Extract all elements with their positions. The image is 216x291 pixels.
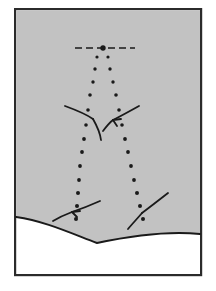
apex-marker-dot [100,45,105,50]
trail-dot [93,67,96,70]
field-region-group [16,10,200,243]
trail-dot [138,204,142,208]
trail-dot [120,123,124,127]
trail-dot [129,164,133,168]
trail-dot [108,67,111,70]
trail-dot [76,191,80,195]
trail-dot [86,108,90,112]
trail-dot [91,80,94,83]
trail-dot [126,150,130,154]
apex-node [100,45,105,50]
trail-dot [114,93,118,97]
upper-gray-field [16,10,200,243]
trail-dot [78,164,82,168]
trail-dot [132,178,136,182]
trail-dot [82,137,86,141]
trail-dot [135,191,139,195]
trail-dot [123,137,127,141]
trail-dot [106,55,109,58]
trail-dot [111,80,114,83]
trail-dot [141,217,145,221]
figure-container [0,0,216,291]
trail-dot [84,123,88,127]
technical-diagram [0,0,216,291]
trail-dot [80,150,84,154]
trail-dot [95,55,98,58]
trail-dot [75,204,79,208]
trail-dot [77,178,81,182]
trail-dot [88,93,92,97]
trail-dot [117,108,121,112]
